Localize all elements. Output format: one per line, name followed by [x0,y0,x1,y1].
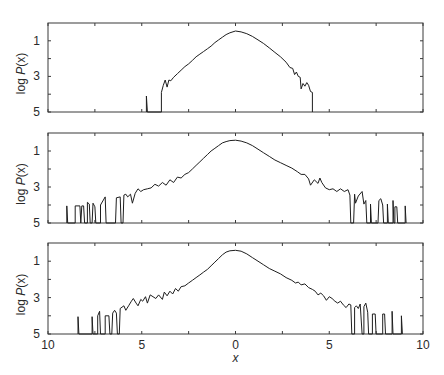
y-axis-label: log P(x) [14,163,28,204]
y-axis-label: log P(x) [14,53,28,94]
y-tick-label: 5 [33,105,40,119]
panel-top: 135log P(x) [14,23,423,119]
series-line-distribution [67,140,406,223]
y-tick-label: 5 [33,216,40,230]
x-tick-label: 10 [416,338,430,352]
y-axis-label: log P(x) [14,274,28,315]
x-tick-label: 10 [41,338,55,352]
x-tick-label: 0 [232,338,239,352]
y-tick-label: 3 [33,69,40,83]
plot-frame [48,133,423,223]
series-line-distribution [78,250,402,334]
plot-frame [48,23,423,112]
y-tick-label: 5 [33,327,40,341]
panel-bottom: 135log P(x)1050510x [14,243,430,365]
y-tick-label: 3 [33,180,40,194]
x-tick-label: 5 [138,338,145,352]
panel-middle: 135log P(x) [14,133,423,230]
y-tick-label: 1 [33,34,40,48]
y-tick-label: 1 [33,144,40,158]
x-axis-label: x [232,351,240,365]
series-line-distribution [146,31,312,112]
y-tick-label: 1 [33,254,40,268]
y-tick-label: 3 [33,291,40,305]
chart-figure: 135log P(x) 135log P(x) 135log P(x)10505… [0,0,444,375]
x-tick-label: 5 [326,338,333,352]
plot-frame [48,243,423,334]
